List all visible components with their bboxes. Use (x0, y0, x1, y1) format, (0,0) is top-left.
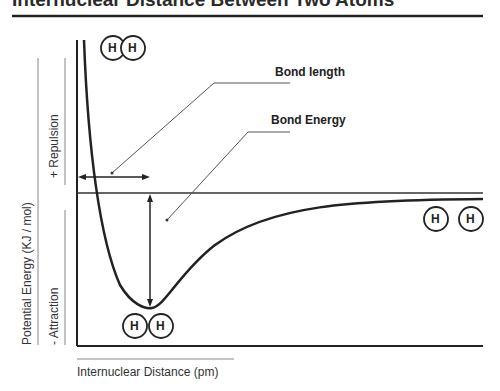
atom-h: H (128, 41, 137, 55)
bond-length-label: Bond length (275, 65, 345, 79)
bond-energy-label: Bond Energy (271, 113, 346, 127)
repulsion-label: + Repulsion (47, 114, 61, 178)
atom-h: H (130, 319, 139, 333)
y-axis-label: Potential Energy (KJ / mol) (20, 202, 34, 345)
atom-h: H (108, 41, 117, 55)
potential-energy-curve (84, 40, 483, 308)
atom-h: H (156, 319, 165, 333)
attraction-label: - Attraction (47, 288, 61, 345)
atom-h: H (466, 212, 475, 226)
energy-diagram (0, 0, 500, 391)
x-axis-label: Internuclear Distance (pm) (77, 365, 218, 379)
atom-h: H (431, 212, 440, 226)
